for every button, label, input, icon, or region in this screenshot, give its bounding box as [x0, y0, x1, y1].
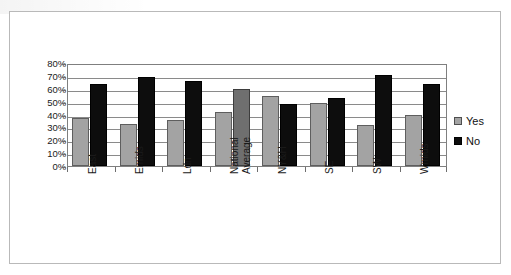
x-axis-labels: EastEmidsLdnNationalAverageNY&HSESWWmids	[67, 172, 459, 252]
y-tick-mark	[62, 167, 66, 168]
x-axis-label-line1: SE	[324, 161, 335, 174]
gray-square-swatch-icon	[454, 117, 462, 125]
y-tick-mark	[62, 90, 66, 91]
chart-frame: 80%70%60%50%40%30%20%10%0% EastEmidsLdnN…	[9, 11, 501, 264]
bar-group	[306, 65, 354, 166]
bar-no	[328, 98, 345, 166]
y-tick-mark	[62, 64, 66, 65]
x-axis-label-line1: Emids	[134, 146, 145, 174]
x-axis-label: NY&H	[277, 146, 288, 174]
x-axis-label: SW	[372, 158, 383, 174]
plot-area	[67, 64, 447, 167]
x-axis-label: Wmids	[419, 143, 430, 174]
y-tick-mark	[62, 141, 66, 142]
bar-yes	[310, 103, 327, 166]
plot-area-wrapper	[67, 64, 447, 167]
bar-no	[185, 81, 202, 166]
legend-label-yes: Yes	[466, 115, 484, 127]
x-axis-label-line1: East	[87, 154, 98, 174]
x-axis-label-line1: Wmids	[419, 143, 430, 174]
x-axis-label: Ldn	[182, 157, 193, 174]
bars-layer	[68, 65, 446, 166]
x-axis-label-line1: SW	[372, 158, 383, 174]
x-axis-label-line1: National	[229, 137, 240, 174]
x-axis-label-line2: Average	[241, 137, 253, 174]
x-axis-label-line1: NY&H	[277, 146, 288, 174]
y-tick-mark	[62, 77, 66, 78]
black-square-swatch-icon	[454, 137, 462, 145]
legend-label-no: No	[466, 135, 480, 147]
bar-no	[375, 75, 392, 166]
bar-group	[163, 65, 211, 166]
legend-item-yes: Yes	[454, 113, 500, 129]
bar-group	[68, 65, 116, 166]
y-axis: 80%70%60%50%40%30%20%10%0%	[30, 58, 66, 173]
y-tick-mark	[62, 116, 66, 117]
y-tick-mark	[62, 154, 66, 155]
chart-legend: Yes No	[454, 113, 500, 153]
x-axis-label: NationalAverage	[229, 137, 252, 174]
bar-group	[353, 65, 401, 166]
x-axis-label: Emids	[134, 146, 145, 174]
x-axis-label: East	[87, 154, 98, 174]
legend-item-no: No	[454, 133, 500, 149]
y-tick-mark	[62, 103, 66, 104]
x-axis-label-line1: Ldn	[182, 157, 193, 174]
y-tick-mark	[62, 128, 66, 129]
x-axis-label: SE	[324, 161, 335, 174]
